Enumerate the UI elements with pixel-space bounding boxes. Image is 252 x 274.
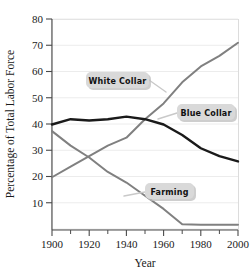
- y-gridlines: [52, 19, 238, 229]
- chart-canvas: 10 20 30 40 50 60 70 80 190: [0, 0, 252, 274]
- y-tick-label: 70: [32, 39, 44, 51]
- series-group: [52, 43, 238, 225]
- y-tick-label: 30: [32, 144, 44, 156]
- y-tick-label: 80: [32, 13, 44, 25]
- callout-label-farming: Farming: [150, 188, 188, 197]
- y-tick-label: 50: [32, 92, 44, 104]
- callout-label-blue-collar: Blue Collar: [180, 109, 231, 118]
- x-axis-title: Year: [134, 257, 155, 269]
- y-axis-title: Percentage of Total Labor Force: [4, 50, 17, 198]
- series-line-blue-collar: [52, 117, 238, 162]
- y-tick-label: 20: [32, 170, 44, 182]
- x-tick-label: 1900: [41, 238, 64, 250]
- callout-label-white-collar: White Collar: [89, 77, 147, 86]
- y-tick-label: 60: [32, 65, 44, 77]
- callout-blue-collar: Blue Collar: [177, 104, 237, 122]
- x-tick-label: 2000: [227, 238, 250, 250]
- x-minor-tickmarks: [71, 230, 220, 234]
- leader-line-white-collar: [149, 80, 166, 92]
- y-tick-label: 40: [32, 118, 44, 130]
- labor-force-line-chart: 10 20 30 40 50 60 70 80 190: [0, 0, 252, 274]
- callout-white-collar: White Collar: [86, 72, 151, 90]
- callout-farming: Farming: [145, 183, 196, 201]
- y-tick-label: 10: [32, 197, 44, 209]
- x-tick-labels: 1900 1920 1940 1960 1980 2000: [41, 238, 250, 250]
- x-tick-label: 1920: [78, 238, 101, 250]
- x-tick-label: 1980: [190, 238, 213, 250]
- series-line-farming: [52, 131, 238, 225]
- x-tick-label: 1960: [153, 238, 176, 250]
- leader-line-blue-collar: [158, 113, 177, 119]
- x-tick-label: 1940: [115, 238, 138, 250]
- y-tick-labels: 10 20 30 40 50 60 70 80: [32, 13, 44, 209]
